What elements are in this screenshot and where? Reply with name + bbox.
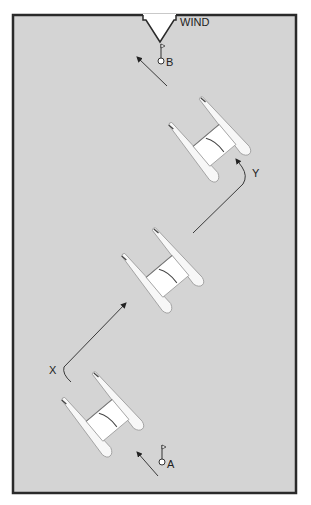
- tack-point-x-label: X: [49, 364, 57, 376]
- tack-point-y-label: Y: [252, 167, 260, 179]
- sailing-diagram: WIND B A X Y: [0, 0, 311, 505]
- finish-mark-label: B: [166, 56, 173, 68]
- wind-label: WIND: [180, 16, 209, 28]
- start-mark-label: A: [167, 458, 175, 470]
- water-area: [13, 15, 296, 493]
